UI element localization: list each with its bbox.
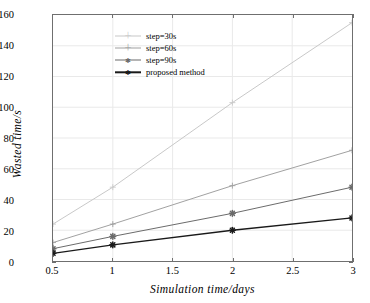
asterisk-marker-icon: ✱ (125, 69, 131, 76)
x-tick-mark (172, 14, 173, 18)
plus-marker-icon: ＋ (124, 32, 132, 40)
y-tick-mark (52, 262, 56, 263)
legend-item-3[interactable]: ✱proposed method (115, 67, 205, 78)
x-axis-label: Simulation time/days (52, 283, 353, 295)
x-tick-label: 2.5 (286, 265, 299, 276)
x-tick-mark (172, 258, 173, 262)
chart-figure: Wasted time/s 020406080100120140160 ＋ste… (0, 0, 370, 303)
y-tick-label: 100 (0, 102, 14, 113)
plus-marker-icon: ＋ (124, 44, 132, 52)
legend-item-0[interactable]: ＋step=30s (115, 31, 205, 42)
x-tick-label: 0.5 (45, 265, 58, 276)
legend-item-2[interactable]: ✱step=90s (115, 55, 205, 66)
legend-label: step=90s (146, 55, 176, 65)
x-tick-mark (52, 14, 53, 18)
y-tick-label: 120 (0, 71, 14, 82)
x-tick-mark (353, 14, 354, 18)
x-tick-mark (353, 258, 354, 262)
legend-label: step=30s (146, 31, 176, 41)
x-tick-mark (233, 14, 234, 18)
y-tick-label: 160 (0, 9, 14, 20)
series-2 (53, 184, 352, 251)
x-tick-mark (233, 258, 234, 262)
x-tick-mark (293, 258, 294, 262)
legend-label: proposed method (146, 67, 205, 77)
x-tick-label: 3 (350, 265, 355, 276)
y-tick-label: 40 (0, 195, 14, 206)
legend-swatch: ＋ (115, 31, 141, 41)
x-tick-label: 1 (110, 265, 115, 276)
y-tick-label: 60 (0, 164, 14, 175)
legend-item-1[interactable]: ＋step=60s (115, 43, 205, 54)
y-tick-label: 20 (0, 226, 14, 237)
y-tick-mark (349, 262, 353, 263)
y-tick-label: 80 (0, 133, 14, 144)
series-3 (53, 215, 352, 256)
legend-swatch: ✱ (115, 67, 141, 77)
x-tick-mark (52, 258, 53, 262)
legend-swatch: ＋ (115, 43, 141, 53)
x-tick-label: 2 (230, 265, 235, 276)
legend: ＋step=30s＋step=60s✱step=90s✱proposed met… (115, 31, 205, 79)
x-tick-mark (293, 14, 294, 18)
asterisk-marker-icon: ✱ (125, 57, 131, 64)
x-tick-mark (112, 14, 113, 18)
y-tick-label: 140 (0, 40, 14, 51)
x-tick-label: 1.5 (166, 265, 179, 276)
legend-label: step=60s (146, 43, 176, 53)
y-tick-label: 0 (0, 257, 14, 268)
plot-area: ＋step=30s＋step=60s✱step=90s✱proposed met… (52, 14, 353, 262)
x-tick-mark (112, 258, 113, 262)
legend-swatch: ✱ (115, 55, 141, 65)
